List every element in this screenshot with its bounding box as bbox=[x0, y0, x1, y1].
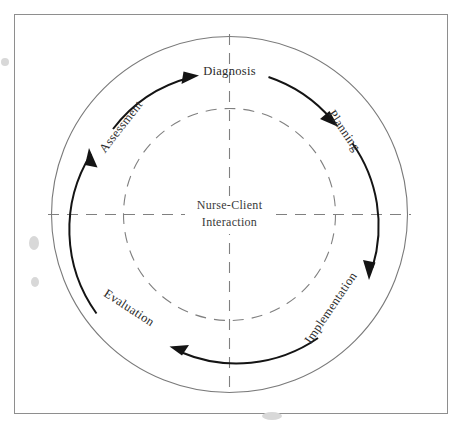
center-label-line1: Nurse-Client bbox=[197, 198, 263, 212]
arrowhead-implementation bbox=[363, 260, 376, 280]
scan-speck bbox=[1, 58, 9, 66]
scan-speck bbox=[29, 236, 39, 250]
scan-speck bbox=[31, 277, 39, 287]
flow-arc-planning-entry bbox=[269, 77, 333, 120]
arrowhead-diagnosis bbox=[182, 72, 200, 85]
stage-label-evaluation: Evaluation bbox=[101, 286, 157, 329]
stage-label-implementation: Implementation bbox=[302, 269, 360, 346]
scan-speck bbox=[262, 412, 282, 420]
flow-arc-implementation-entry bbox=[353, 144, 379, 268]
flow-arc-assessment bbox=[69, 154, 96, 314]
stage-label-diagnosis: Diagnosis bbox=[203, 64, 256, 78]
arrowhead-assessment bbox=[85, 148, 98, 168]
stage-label-planning: Planning bbox=[325, 107, 363, 154]
center-label-line2: Interaction bbox=[202, 215, 257, 229]
flow-arc-evaluation-entry bbox=[181, 338, 319, 363]
figure-page: Diagnosis Assessment Planning Implementa… bbox=[0, 0, 467, 429]
stage-label-assessment: Assessment bbox=[96, 98, 145, 156]
cycle-diagram: Diagnosis Assessment Planning Implementa… bbox=[0, 0, 467, 429]
